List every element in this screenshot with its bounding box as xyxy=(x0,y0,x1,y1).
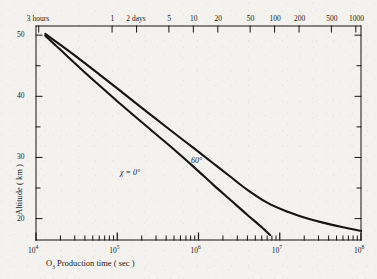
top-tick-label: 20 xyxy=(214,15,222,23)
x-tick-label: 106 xyxy=(191,245,201,254)
y-tick-label: 20 xyxy=(17,215,25,223)
curve-label-1: 60° xyxy=(191,157,202,165)
x-tick-label: 104 xyxy=(28,245,38,254)
curve-series-1 xyxy=(45,34,361,231)
x-axis-title: O3 Production time ( sec ) xyxy=(46,259,135,270)
top-tick-label: 1 xyxy=(110,15,114,23)
curve-series-0 xyxy=(45,36,270,235)
top-tick-label: 200 xyxy=(294,15,305,23)
chart-figure: 504030201041051061071083 hours12 days510… xyxy=(0,0,377,279)
top-tick-label: 100 xyxy=(269,15,280,23)
y-axis-title: Altitude ( km ) xyxy=(14,164,24,215)
top-tick-label: 5 xyxy=(167,15,171,23)
x-tick-label: 107 xyxy=(272,245,282,254)
chart-canvas xyxy=(0,0,377,279)
x-tick-label: 105 xyxy=(109,245,119,254)
top-tick-label: 2 days xyxy=(126,15,145,23)
x-tick-label: 108 xyxy=(354,245,364,254)
top-tick-label: 500 xyxy=(326,15,337,23)
top-tick-label: 1000 xyxy=(349,15,364,23)
top-tick-label: 3 hours xyxy=(27,15,49,23)
y-tick-label: 30 xyxy=(17,153,25,161)
y-tick-label: 40 xyxy=(17,92,25,100)
y-tick-label: 50 xyxy=(17,31,25,39)
curve-label-0: χ = 0° xyxy=(120,169,140,177)
top-tick-label: 10 xyxy=(190,15,198,23)
top-tick-label: 50 xyxy=(247,15,255,23)
